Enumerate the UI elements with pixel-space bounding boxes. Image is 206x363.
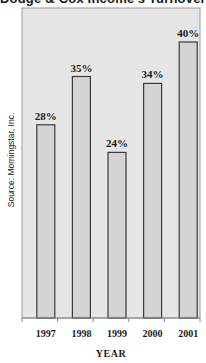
bar-1999: [108, 152, 126, 318]
bar-1997: [37, 125, 55, 318]
bar-value-label: 28%: [35, 110, 57, 122]
source-note: Source: Morningstar, Inc.: [6, 113, 16, 208]
x-tick-labels-group: 19971998199920002001: [36, 328, 198, 339]
bar-1998: [72, 77, 90, 319]
bar-value-label: 34%: [142, 68, 164, 80]
x-tick-label: 2000: [143, 328, 163, 339]
x-tick-label: 1998: [71, 328, 91, 339]
bar-2000: [144, 83, 162, 318]
x-tick-label: 2001: [178, 328, 198, 339]
x-axis-title: YEAR: [96, 348, 127, 359]
bar-2001: [179, 42, 197, 318]
bar-value-label: 35%: [70, 62, 92, 74]
x-tick-label: 1997: [36, 328, 56, 339]
bar-value-label: 40%: [177, 27, 199, 39]
bar-value-label: 24%: [106, 137, 128, 149]
bar-chart: 28%35%24%34%40% 19971998199920002001 YEA…: [0, 0, 206, 363]
x-tick-label: 1999: [107, 328, 127, 339]
x-ticks-group: [22, 318, 200, 322]
